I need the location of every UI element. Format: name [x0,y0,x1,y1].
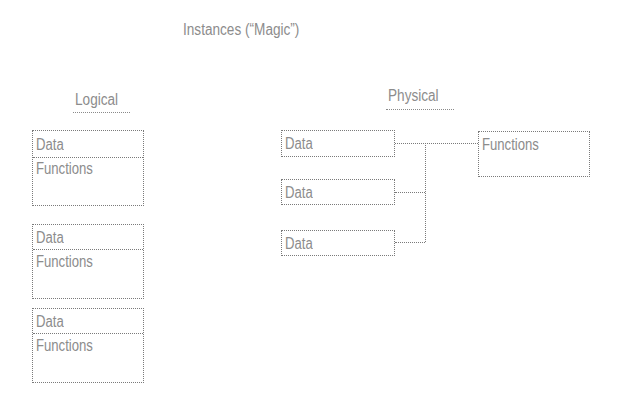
logical-object-2-functions-label: Functions [36,254,93,270]
logical-object-1: Data Functions [32,130,144,206]
physical-functions-box-label: Functions [482,137,539,153]
physical-heading: Physical [388,88,439,104]
logical-heading-underline [73,112,130,113]
physical-data-box-1-label: Data [285,136,313,152]
physical-data-box-1: Data [281,130,395,157]
physical-data-box-3: Data [281,230,395,256]
logical-object-1-data-label: Data [36,137,64,153]
diagram-title: Instances (“Magic”) [183,22,299,38]
connector-trunk [425,143,426,242]
physical-data-box-2-label: Data [285,185,313,201]
logical-object-2: Data Functions [32,224,144,299]
logical-object-3-divider [33,333,143,334]
connector-data-3 [395,242,425,243]
logical-object-1-functions-label: Functions [36,161,93,177]
logical-heading: Logical [75,92,118,108]
logical-object-3-functions-label: Functions [36,338,93,354]
physical-functions-box: Functions [478,131,590,177]
logical-object-2-data-label: Data [36,230,64,246]
logical-object-1-divider [33,157,143,158]
connector-data-2 [395,192,425,193]
logical-object-3: Data Functions [32,308,144,383]
physical-data-box-3-label: Data [285,236,313,252]
logical-object-3-data-label: Data [36,314,64,330]
physical-data-box-2: Data [281,179,395,205]
logical-object-2-divider [33,249,143,250]
physical-heading-underline [386,109,454,110]
connector-data-1-to-functions [395,143,478,144]
